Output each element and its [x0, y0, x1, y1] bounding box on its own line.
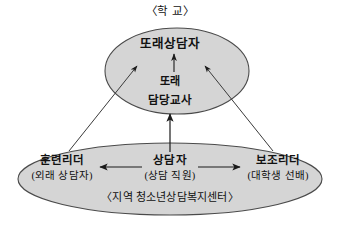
node-counselor-name: 상담자 [153, 154, 187, 166]
node-assistant-leader-detail: (대학생 선배) [226, 170, 330, 181]
node-trainer-detail: (외래 상담자) [10, 170, 114, 181]
peer-counseling-diagram: 〈학 교〉 또래상담자 또래 담당교사 훈련리더 (외래 상담자) 상담자 (상… [0, 0, 340, 228]
school-caption: 〈학 교〉 [0, 5, 340, 17]
node-assistant-leader-name: 보조리더 [256, 154, 301, 166]
node-peer-counselor: 또래상담자 [0, 38, 340, 51]
node-trainer-name: 훈련리더 [40, 154, 85, 166]
node-counselor-detail: (상담 직원) [118, 170, 222, 181]
node-counselor: 상담자 (상담 직원) [118, 154, 222, 181]
center-caption: 〈지역 청소년상담복지센터〉 [0, 192, 340, 204]
node-peer-teacher-line2: 담당교사 [0, 94, 340, 106]
node-assistant-leader: 보조리더 (대학생 선배) [226, 154, 330, 181]
node-trainer: 훈련리더 (외래 상담자) [10, 154, 114, 181]
node-peer-teacher-line1: 또래 [0, 76, 340, 88]
